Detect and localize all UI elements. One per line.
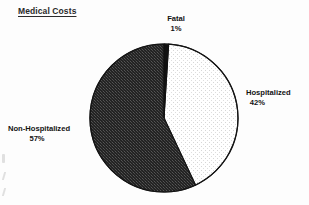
slice-label-fatal-percent: 1% [148,24,204,34]
scan-artifact-mark [2,154,5,163]
slice-label-fatal-name: Fatal [167,14,185,23]
slice-label-fatal: Fatal 1% [148,14,204,34]
pie-chart [89,38,239,198]
page-title: Medical Costs [18,6,76,16]
pie-chart-svg [89,38,239,198]
slice-label-non-hospitalized-name: Non-Hospitalized [8,124,70,133]
slice-label-hospitalized-name: Hospitalized [246,88,291,97]
scan-edge-artifacts [0,150,14,205]
slice-label-hospitalized-percent: 42% [246,98,291,108]
medical-costs-figure: Medical Costs [0,0,309,205]
scan-artifact-mark [2,172,6,180]
slice-label-hospitalized: Hospitalized 42% [246,88,291,108]
scan-artifact-mark [2,188,6,196]
slice-label-non-hospitalized-percent: 57% [8,134,70,144]
slice-label-non-hospitalized: Non-Hospitalized 57% [8,124,70,144]
